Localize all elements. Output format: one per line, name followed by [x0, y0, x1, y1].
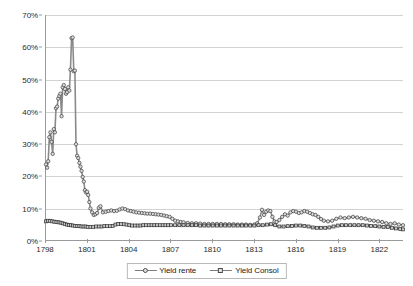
- x-tick-mark: [129, 239, 130, 243]
- data-point: [278, 218, 281, 221]
- data-point: [99, 205, 102, 208]
- data-point: [186, 224, 189, 227]
- data-point: [360, 216, 363, 219]
- data-point: [261, 224, 264, 227]
- y-tick-mark: [39, 144, 42, 145]
- x-tick-mark: [87, 239, 88, 243]
- data-point: [357, 224, 360, 227]
- x-tick-mark: [254, 239, 255, 243]
- data-point: [59, 92, 62, 95]
- data-point: [372, 219, 375, 222]
- data-point: [68, 89, 71, 92]
- data-point: [88, 200, 91, 203]
- data-point: [351, 215, 354, 218]
- data-point: [199, 224, 202, 227]
- y-tick-label: 30%: [22, 140, 38, 149]
- data-point: [228, 224, 231, 227]
- y-axis: 70%60%50%40%30%20%10%0%: [0, 15, 42, 241]
- data-point: [393, 222, 396, 225]
- data-point: [286, 214, 289, 217]
- series-layer: [46, 15, 403, 240]
- data-point: [82, 180, 85, 183]
- y-tick-mark: [39, 47, 42, 48]
- data-point: [353, 224, 356, 227]
- data-point: [330, 219, 333, 222]
- data-point: [55, 105, 58, 108]
- x-tick-label: 1804: [120, 245, 137, 254]
- x-tick-label: 1822: [371, 245, 388, 254]
- data-point: [368, 218, 371, 221]
- y-tick-mark: [39, 176, 42, 177]
- x-tick-label: 1798: [36, 245, 53, 254]
- data-point: [355, 216, 358, 219]
- data-point: [395, 227, 398, 230]
- data-point: [303, 224, 306, 227]
- data-point: [78, 161, 81, 164]
- data-point: [257, 224, 260, 227]
- data-point: [343, 216, 346, 219]
- data-point: [224, 224, 227, 227]
- legend-label-yield-consol: Yield Consol: [235, 266, 278, 275]
- data-point: [376, 220, 379, 223]
- data-point: [286, 225, 289, 228]
- data-point: [207, 224, 210, 227]
- x-tick-mark: [379, 239, 380, 243]
- data-point: [361, 224, 364, 227]
- data-point: [87, 193, 90, 196]
- data-point: [390, 226, 393, 229]
- data-point: [51, 152, 54, 155]
- data-point: [315, 226, 318, 229]
- data-point: [53, 131, 56, 134]
- x-tick-label: 1819: [329, 245, 346, 254]
- data-point: [345, 224, 348, 227]
- data-point: [211, 224, 214, 227]
- data-point: [380, 220, 383, 223]
- x-tick-label: 1810: [203, 245, 220, 254]
- data-point: [215, 224, 218, 227]
- legend-item-yield-rente[interactable]: Yield rente: [134, 266, 196, 275]
- legend-item-yield-consol[interactable]: Yield Consol: [210, 266, 278, 275]
- data-point: [240, 224, 243, 227]
- data-point: [253, 224, 256, 227]
- data-point: [245, 224, 248, 227]
- data-point: [74, 143, 77, 146]
- data-point: [365, 224, 368, 227]
- data-point: [322, 219, 325, 222]
- x-tick-mark: [212, 239, 213, 243]
- data-point: [170, 224, 173, 227]
- data-point: [307, 225, 310, 228]
- x-axis: 179818011804180718101813181618191822: [45, 243, 403, 259]
- data-point: [389, 222, 392, 225]
- x-tick-label: 1801: [78, 245, 95, 254]
- data-point: [386, 226, 389, 229]
- data-point: [349, 224, 352, 227]
- data-point: [340, 224, 343, 227]
- data-point: [190, 224, 193, 227]
- data-point: [269, 209, 272, 212]
- data-point: [364, 217, 367, 220]
- data-point: [290, 224, 293, 227]
- data-point: [60, 115, 63, 118]
- data-point: [278, 225, 281, 228]
- data-point: [374, 225, 377, 228]
- data-point: [332, 225, 335, 228]
- data-point: [328, 226, 331, 229]
- data-point: [95, 211, 98, 214]
- data-point: [270, 223, 273, 226]
- data-point: [262, 213, 265, 216]
- y-tick-mark: [39, 79, 42, 80]
- data-point: [79, 165, 82, 168]
- chart-container: 70%60%50%40%30%20%10%0% 1798180118041807…: [0, 0, 413, 286]
- data-point: [249, 224, 252, 227]
- data-point: [47, 160, 50, 163]
- data-point: [45, 166, 48, 169]
- x-tick-mark: [45, 239, 46, 243]
- plot-area: [45, 15, 403, 241]
- data-point: [50, 140, 53, 143]
- data-point: [280, 215, 283, 218]
- data-point: [324, 226, 327, 229]
- data-point: [89, 207, 92, 210]
- data-point: [295, 224, 298, 227]
- data-point: [274, 224, 277, 227]
- data-point: [347, 216, 350, 219]
